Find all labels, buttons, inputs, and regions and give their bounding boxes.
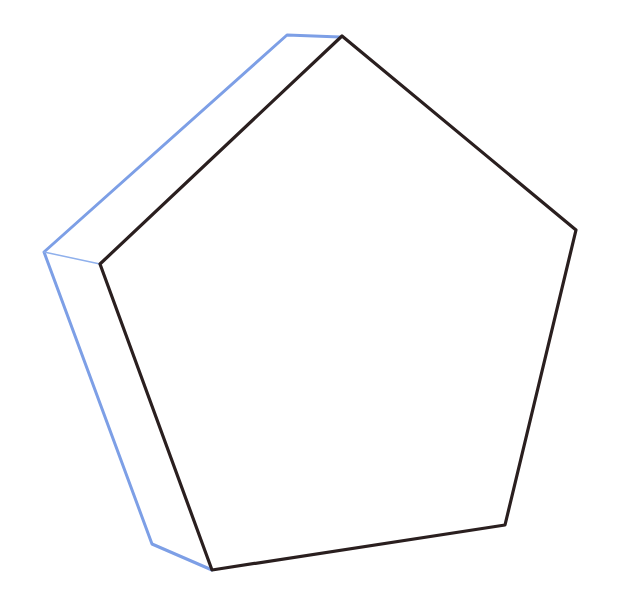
pentagon-front-face bbox=[100, 36, 576, 570]
pentagonal-prism-drawing bbox=[0, 0, 625, 615]
prism-depth-edge bbox=[44, 252, 100, 264]
prism-back-edges bbox=[44, 35, 340, 570]
diagram-canvas bbox=[0, 0, 625, 615]
